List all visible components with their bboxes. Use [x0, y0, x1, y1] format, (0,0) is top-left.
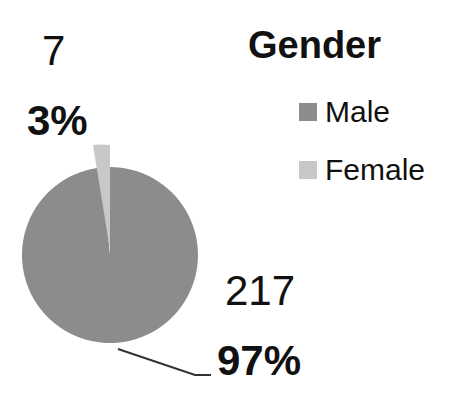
male-count-label: 217	[225, 270, 295, 312]
legend-label-female: Female	[325, 153, 425, 187]
male-percent-label: 97%	[217, 340, 301, 382]
legend: Male Female	[299, 95, 425, 187]
legend-item-female: Female	[299, 153, 425, 187]
legend-label-male: Male	[325, 95, 390, 129]
legend-swatch-male	[299, 103, 317, 121]
chart-title: Gender	[248, 24, 381, 67]
leader-line	[118, 349, 211, 375]
legend-swatch-female	[299, 161, 317, 179]
female-count-label: 7	[42, 30, 65, 72]
female-percent-label: 3%	[27, 100, 88, 142]
legend-item-male: Male	[299, 95, 425, 129]
